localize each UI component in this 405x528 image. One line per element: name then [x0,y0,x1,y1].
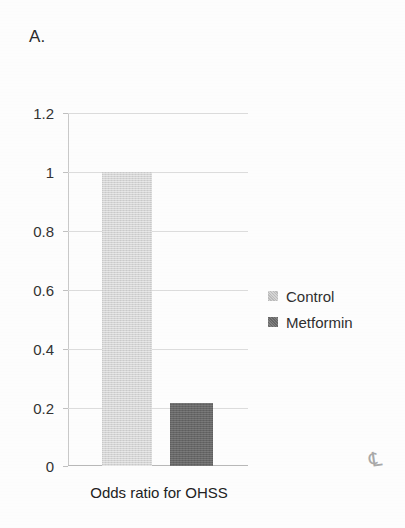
y-tick-label: 0.4 [0,341,62,358]
y-tick-label: 1 [0,164,62,181]
y-axis-tick [63,172,68,173]
x-axis-label: Odds ratio for OHSS [68,484,250,501]
gridline [68,113,248,114]
legend-swatch-control-icon [268,291,278,301]
gridline [68,408,248,409]
y-axis-tick [63,408,68,409]
figure-panel-a: A. 1.2 1 0.8 0.6 0.4 0.2 0 [0,0,405,528]
y-tick-label: 0.2 [0,400,62,417]
plot-area [68,113,248,466]
legend-item-control[interactable]: Control [268,283,353,309]
legend-label-control: Control [286,288,334,305]
y-tick-label: 0 [0,458,62,475]
bar-control[interactable] [102,172,152,466]
y-axis-tick [63,466,68,467]
legend-item-metformin[interactable]: Metformin [268,309,353,335]
legend-label-metformin: Metformin [286,314,353,331]
scan-artifact-mark: ℄ [367,446,383,472]
bar-metformin[interactable] [170,403,213,466]
y-tick-label: 1.2 [0,105,62,122]
y-axis-tick-labels: 1.2 1 0.8 0.6 0.4 0.2 0 [0,0,62,528]
y-axis-tick [63,113,68,114]
legend-swatch-metformin-icon [268,317,278,327]
y-tick-label: 0.8 [0,223,62,240]
y-tick-label: 0.6 [0,282,62,299]
gridline [68,349,248,350]
gridline [68,290,248,291]
y-axis-tick [63,349,68,350]
y-axis-tick [63,290,68,291]
y-axis-tick [63,231,68,232]
gridline [68,172,248,173]
x-axis-line [68,465,248,466]
chart-legend: Control Metformin [268,283,353,335]
gridline [68,231,248,232]
